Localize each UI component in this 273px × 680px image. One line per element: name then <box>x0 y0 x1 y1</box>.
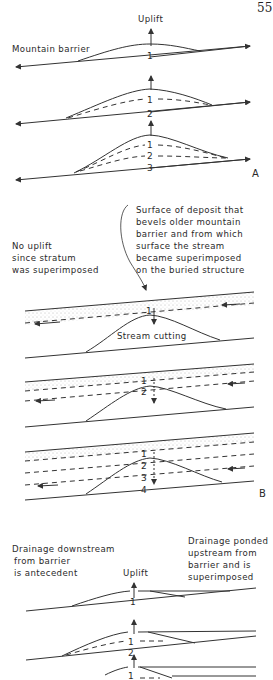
level-number: 2 <box>141 461 147 471</box>
level-number: 4 <box>141 485 147 495</box>
flow-arrow-icon <box>38 485 58 486</box>
flow-arrow-icon <box>228 468 245 469</box>
stage-b3: 1 2 3 4 <box>25 433 254 500</box>
level-number: 2 <box>141 387 147 397</box>
antecedent-note: Drainage downstream from barrier is ante… <box>12 544 115 578</box>
level-number: 2 <box>147 151 153 161</box>
level-number: 1 <box>141 376 147 386</box>
svg-text:since stratum: since stratum <box>12 253 76 263</box>
svg-text:bevels older mountain: bevels older mountain <box>136 217 241 227</box>
stage-c3: 1 <box>105 655 256 680</box>
svg-text:on the buried structure: on the buried structure <box>136 265 245 275</box>
mountain-profile <box>66 89 212 118</box>
stage-c2: 1 2 <box>26 620 256 660</box>
ponded-wedge <box>150 591 185 597</box>
panel-letter-a: A <box>252 168 259 179</box>
level-number: 1 <box>147 140 153 150</box>
stage-c1: 1 <box>26 583 256 611</box>
flow-arrow-icon <box>228 383 245 384</box>
level-number: 1 <box>147 95 153 105</box>
base-line <box>25 407 254 427</box>
level-number: 1 <box>128 671 134 680</box>
ponded-wedge <box>140 667 172 678</box>
barrier-profile <box>105 667 128 675</box>
base-line <box>25 481 254 500</box>
ponded-note: Drainage ponded upstream from barrier an… <box>188 536 268 582</box>
svg-text:upstream from: upstream from <box>188 548 257 558</box>
svg-text:became superimposed: became superimposed <box>136 253 242 263</box>
stream-arrow-right <box>150 159 250 168</box>
level-number: 1 <box>128 637 134 647</box>
svg-text:barrier and is: barrier and is <box>188 560 251 570</box>
stream-cutting-label: Stream cutting <box>117 331 187 341</box>
svg-text:Drainage downstream: Drainage downstream <box>12 544 115 554</box>
stage-b1: 1 Stream cutting <box>25 292 254 358</box>
panel-letter-b: B <box>259 488 266 499</box>
stage-a2: 1 2 <box>16 76 250 124</box>
diagram-canvas: 55 Uplift Mountain barrier 1 1 2 <box>0 0 273 680</box>
panel-c: Drainage downstream from barrier is ante… <box>12 536 268 680</box>
svg-text:Drainage ponded: Drainage ponded <box>188 536 268 546</box>
stream-arrow-right <box>150 102 250 112</box>
stream-level <box>25 466 254 485</box>
level-number: 3 <box>141 473 147 483</box>
base-line <box>25 338 254 358</box>
panel-a: Uplift Mountain barrier 1 1 2 <box>12 14 259 180</box>
svg-text:is antecedent: is antecedent <box>14 568 78 578</box>
deposit-surface-note: Surface of deposit that bevels older mou… <box>136 205 245 275</box>
page-number: 55 <box>257 1 272 15</box>
level-number: 1 <box>141 449 147 459</box>
level-number: 2 <box>128 648 134 658</box>
deposit-stratum <box>25 433 254 462</box>
svg-text:Surface of deposit that: Surface of deposit that <box>136 205 244 215</box>
uplift-label-a: Uplift <box>138 14 163 24</box>
svg-text:was superimposed: was superimposed <box>12 265 99 275</box>
svg-text:No uplift: No uplift <box>12 241 52 251</box>
ponded-wedge <box>148 632 195 643</box>
svg-text:surface the stream: surface the stream <box>136 241 225 251</box>
svg-text:superimposed: superimposed <box>188 572 254 582</box>
deposit-stratum <box>25 364 254 391</box>
stream-line <box>26 636 256 660</box>
level-number: 1 <box>130 597 136 607</box>
level-number: 2 <box>147 109 153 119</box>
svg-text:barrier and from which: barrier and from which <box>136 229 243 239</box>
level-number: 1 <box>146 306 152 316</box>
ponded-surface <box>138 631 256 632</box>
uplift-label-c: Uplift <box>123 568 148 578</box>
svg-text:from barrier: from barrier <box>14 556 70 566</box>
stream-arrow-right <box>150 46 250 57</box>
stage-b2: 1 2 <box>25 364 254 427</box>
stage-a3: 1 2 3 <box>16 121 250 180</box>
mountain-barrier-label: Mountain barrier <box>12 44 90 54</box>
no-uplift-note: No uplift since stratum was superimposed <box>12 241 99 275</box>
level-number: 1 <box>147 51 153 61</box>
level-number: 3 <box>147 163 153 173</box>
panel-b: Surface of deposit that bevels older mou… <box>12 205 266 500</box>
